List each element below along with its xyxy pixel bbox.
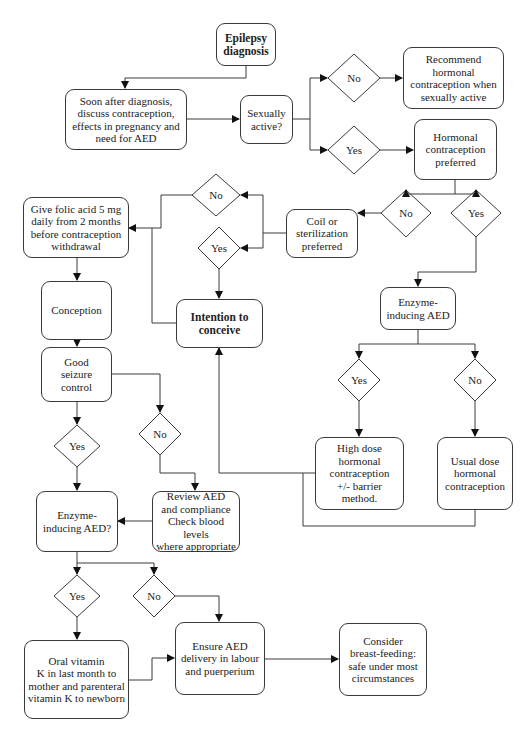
node-hormonal-preferred: Hormonal contraception preferred bbox=[414, 119, 497, 180]
connector-enzyme-left-branch bbox=[77, 551, 154, 574]
node-conception: Conception bbox=[41, 281, 112, 340]
decision-label-sexually-active-yes: Yes bbox=[334, 143, 374, 157]
flowchart: Epilepsy diagnosis Soon after diagnosis,… bbox=[0, 0, 531, 736]
node-epilepsy-diagnosis: Epilepsy diagnosis bbox=[216, 23, 276, 66]
connector-vitamin-k-to-ensure bbox=[128, 658, 174, 680]
decision-label-hormonal-no: No bbox=[386, 206, 426, 220]
connector-coil-to-yes bbox=[241, 233, 263, 248]
node-review-aed: Review AED and compliance Check blood le… bbox=[152, 491, 240, 552]
node-enzyme-inducing-right: Enzyme- inducing AED bbox=[380, 287, 456, 330]
decision-label-enzyme-right-no: No bbox=[455, 373, 495, 387]
connector-to-no-top bbox=[310, 78, 327, 119]
node-discuss-contraception: Soon after diagnosis, discuss contracept… bbox=[65, 89, 187, 150]
connector-coil-no-to-folic bbox=[129, 195, 192, 228]
decision-label-seizure-no: No bbox=[140, 427, 180, 441]
decision-label-hormonal-yes: Yes bbox=[456, 206, 496, 220]
decision-label-seizure-yes: Yes bbox=[57, 439, 97, 453]
node-coil-sterilization: Coil or sterilization preferred bbox=[286, 209, 358, 258]
decision-label-coil-yes: Yes bbox=[199, 241, 239, 255]
node-vitamin-k: Oral vitamin K in last month to mother a… bbox=[24, 640, 129, 719]
connector-seizure-no-to-review bbox=[160, 455, 195, 490]
connector-hormonal-branch bbox=[406, 179, 455, 194]
connector-to-yes-top bbox=[310, 119, 327, 150]
connector-high-dose-to-intention bbox=[219, 348, 315, 473]
connector-enzyme-right-branch bbox=[359, 329, 418, 358]
node-intention-to-conceive: Intention to conceive bbox=[176, 299, 263, 348]
connector-seizure-to-no bbox=[111, 374, 160, 412]
decision-label-enzyme-left-yes: Yes bbox=[57, 589, 97, 603]
node-high-dose: High dose hormonal contraception +/- bar… bbox=[315, 437, 404, 510]
decision-label-coil-no: No bbox=[196, 188, 236, 202]
connector-enzyme-right-to-no bbox=[418, 344, 475, 358]
node-folic-acid: Give folic acid 5 mg daily from 2 months… bbox=[23, 197, 129, 258]
decision-label-enzyme-left-no: No bbox=[134, 589, 174, 603]
node-breast-feeding: Consider breast-feeding: safe under most… bbox=[339, 623, 427, 696]
decision-label-enzyme-right-yes: Yes bbox=[339, 373, 379, 387]
node-ensure-aed-delivery: Ensure AED delivery in labour and puerpe… bbox=[175, 622, 265, 695]
node-sexually-active: Sexually active? bbox=[240, 95, 293, 144]
node-good-seizure-control: Good seizure control bbox=[41, 347, 112, 402]
connector-intention-to-folic bbox=[152, 228, 176, 323]
connector-yes-to-enzyme-right bbox=[418, 237, 476, 286]
node-recommend-hormonal: Recommend hormonal contraception when se… bbox=[403, 47, 504, 109]
connector-left-no-to-ensure bbox=[175, 596, 219, 621]
connector-coil-to-no bbox=[241, 195, 263, 233]
decision-label-sexually-active-no: No bbox=[334, 71, 374, 85]
node-enzyme-inducing-left: Enzyme- inducing AED? bbox=[36, 491, 118, 552]
connector-diagnosis-to-discuss bbox=[125, 65, 246, 88]
node-usual-dose: Usual dose hormonal contraception bbox=[437, 437, 513, 510]
